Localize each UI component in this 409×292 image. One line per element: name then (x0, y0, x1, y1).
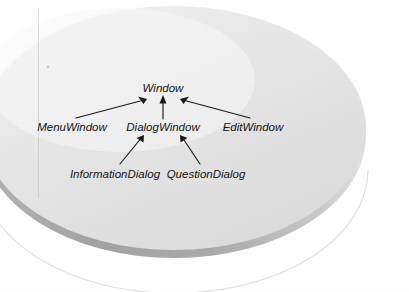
figure-canvas: Window MenuWindow DialogWindow EditWindo… (0, 0, 409, 292)
node-label-edit-window: EditWindow (223, 121, 284, 134)
node-label-window: Window (143, 82, 184, 95)
node-label-menu-window: MenuWindow (37, 121, 107, 134)
class-hierarchy-diagram: Window MenuWindow DialogWindow EditWindo… (0, 0, 409, 292)
arrowhead-dialog-to-window (160, 95, 167, 104)
node-label-question-dialog: QuestionDialog (167, 168, 246, 181)
edge-menu-to-window-line (76, 100, 144, 118)
arrowhead-menu-to-window (138, 97, 147, 105)
diagram-arrows-svg (0, 0, 409, 292)
arrowhead-information-to-dialog (137, 135, 145, 143)
edge-information-to-dialog-line (120, 137, 142, 164)
node-label-information-dialog: InformationDialog (70, 168, 160, 181)
edge-edit-to-window-line (183, 100, 250, 118)
arrowhead-edit-to-window (180, 97, 189, 105)
arrowhead-question-to-dialog (180, 135, 188, 143)
edge-question-to-dialog-line (182, 137, 200, 164)
node-label-dialog-window: DialogWindow (126, 121, 199, 134)
